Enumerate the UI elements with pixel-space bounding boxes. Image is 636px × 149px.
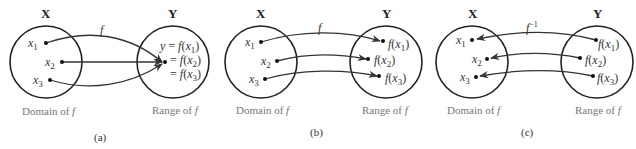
label-x3: x3 (459, 70, 470, 86)
range-label: Range of f (362, 104, 410, 116)
range-label: Range of f (152, 104, 200, 116)
point-y (163, 60, 167, 64)
mapping-arrow (265, 71, 377, 79)
mapping-arrow (277, 55, 366, 61)
range-label: Range of f (575, 104, 623, 116)
domain-label: Domain of f (447, 104, 502, 116)
inverse-arrow (480, 71, 593, 76)
point-x3 (263, 77, 267, 81)
label-x2: x2 (260, 54, 271, 70)
set-x-label: X (41, 6, 51, 21)
set-y-label: Y (593, 6, 603, 21)
point-x2 (485, 57, 489, 61)
label-fx1: f(x1) (388, 37, 409, 53)
point-x2 (275, 59, 279, 63)
point-fx3 (591, 74, 595, 78)
point-fx3 (377, 74, 381, 78)
label-fx2: f(x2) (374, 53, 395, 69)
point-fx2 (366, 57, 370, 61)
caption-c: (c) (521, 126, 534, 139)
set-y-label: Y (382, 6, 392, 21)
point-x2 (60, 60, 64, 64)
point-fx2 (578, 56, 582, 60)
point-x1 (259, 40, 263, 44)
label-fx3: f(x3) (597, 71, 618, 87)
point-fx1 (381, 39, 385, 43)
label-x2: x2 (44, 55, 55, 71)
domain-label: Domain of f (22, 105, 77, 117)
label-fx2: f(x2) (585, 53, 606, 69)
caption-b: (b) (310, 126, 323, 139)
label-x2: x2 (471, 52, 482, 68)
set-x-label: X (256, 6, 266, 21)
domain-label: Domain of f (236, 104, 291, 116)
set-x-label: X (468, 6, 478, 21)
arrow-label-f: f (100, 23, 105, 37)
panel-c: X Y f−1 x1 x2 x3 f(x1) f(x2) f(x3) Domai… (436, 6, 633, 139)
panel-a: X Y f x1 x2 x3 y = f(x1) = f(x2) = f(x3)… (10, 6, 209, 144)
label-fx3: f(x3) (385, 71, 406, 87)
set-y-label: Y (168, 6, 178, 21)
point-x3 (48, 78, 52, 82)
label-x3: x3 (248, 72, 259, 88)
function-mapping-diagrams: X Y f x1 x2 x3 y = f(x1) = f(x2) = f(x3)… (0, 0, 636, 149)
label-fx3: = f(x3) (170, 67, 201, 83)
label-x3: x3 (32, 73, 43, 89)
label-x1: x1 (27, 36, 38, 52)
inverse-arrow (491, 54, 580, 59)
label-fx1: f(x1) (598, 37, 619, 53)
point-x3 (474, 75, 478, 79)
mapping-arrow (50, 64, 162, 86)
label-x1: x1 (455, 33, 466, 49)
caption-a: (a) (94, 131, 107, 144)
label-x1: x1 (244, 35, 255, 51)
point-x1 (44, 41, 48, 45)
point-x1 (470, 38, 474, 42)
panel-b: X Y f x1 x2 x3 f(x1) f(x2) f(x3) Domain … (225, 6, 422, 139)
